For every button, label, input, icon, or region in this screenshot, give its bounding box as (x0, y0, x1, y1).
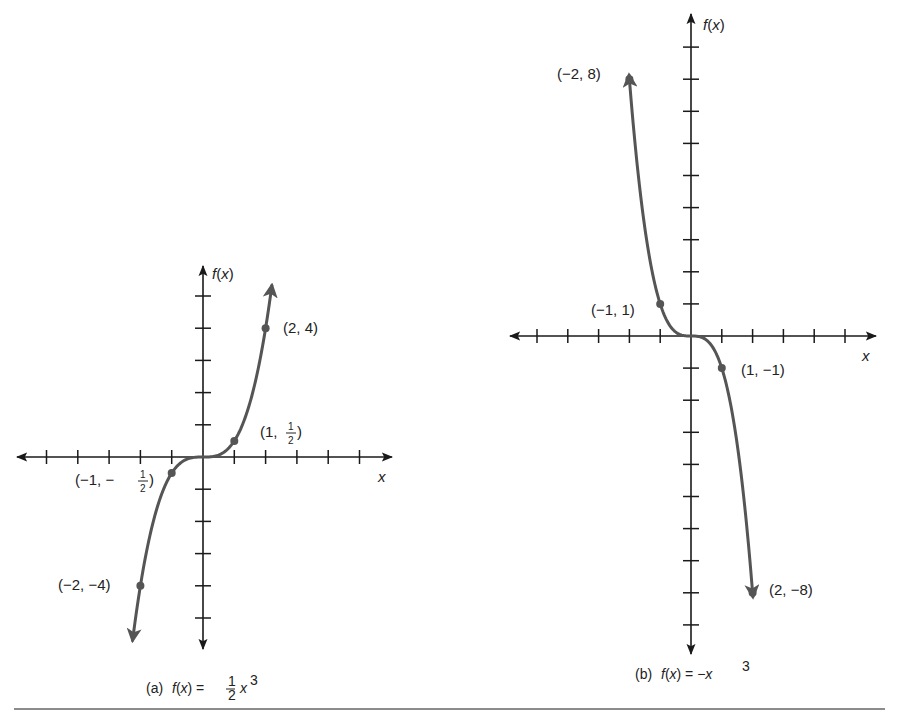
svg-text:): ) (297, 423, 302, 440)
graph-b: f(x) x (−2, 8) (−1, 1) (1, −1) (2, −8) (… (510, 14, 876, 682)
graph-a-y-label: f(x) (212, 265, 234, 282)
svg-text:2: 2 (228, 687, 236, 703)
svg-text:(−1, −: (−1, − (75, 471, 114, 488)
graph-a-x-label: x (377, 468, 386, 485)
point-label-2-4: (2, 4) (283, 319, 318, 336)
graph-b-x-label: x (861, 347, 870, 364)
data-point (136, 582, 144, 590)
svg-text:3: 3 (742, 658, 750, 674)
svg-text:x: x (239, 680, 248, 696)
graph-a: f(x) x (2, 4) (1, 1 2 ) (−1, − 1 2 ) (−2… (17, 265, 392, 703)
svg-text:(b): (b) (635, 666, 652, 682)
svg-text:f(x) =: f(x) = (172, 680, 204, 696)
svg-text:1: 1 (288, 421, 294, 432)
graph-a-caption: (a) f(x) = 1 2 x 3 (146, 672, 258, 703)
point-label-neg2-neg4: (−2, −4) (58, 576, 111, 593)
data-point (230, 437, 238, 445)
data-point (656, 300, 664, 308)
svg-text:3: 3 (250, 672, 258, 688)
svg-text:(a): (a) (146, 680, 163, 696)
svg-text:f(x) = −x: f(x) = −x (661, 666, 713, 682)
data-point (625, 75, 633, 83)
point-label-neg1-neghalf: (−1, − 1 2 ) (75, 469, 154, 494)
data-point (718, 364, 726, 372)
svg-text:): ) (149, 471, 154, 488)
data-point (262, 324, 270, 332)
graph-b-caption: (b) f(x) = −x 3 (635, 658, 750, 682)
svg-text:2: 2 (140, 483, 146, 494)
figure-canvas: f(x) x (2, 4) (1, 1 2 ) (−1, − 1 2 ) (−2… (0, 0, 900, 713)
point-label-neg2-8: (−2, 8) (557, 65, 601, 82)
svg-text:(1,: (1, (260, 423, 278, 440)
graph-b-y-label: f(x) (703, 16, 725, 33)
data-point (168, 469, 176, 477)
data-point (749, 589, 757, 597)
svg-text:1: 1 (140, 469, 146, 480)
point-label-1-neg1: (1, −1) (741, 361, 785, 378)
point-label-2-neg8: (2, −8) (769, 581, 813, 598)
point-label-neg1-1: (−1, 1) (591, 301, 635, 318)
point-label-1-half: (1, 1 2 ) (260, 421, 302, 446)
svg-text:2: 2 (288, 435, 294, 446)
